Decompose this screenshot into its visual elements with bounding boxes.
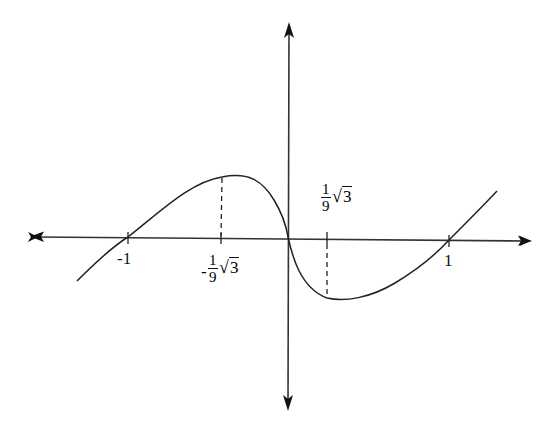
label-local-max-fraction: 1 9 — [208, 253, 218, 285]
radicand: 3 — [229, 257, 240, 277]
x-axis — [36, 237, 528, 241]
fraction-denominator: 9 — [208, 269, 218, 285]
function-graph — [0, 0, 551, 445]
dashed-guide-local-max — [221, 178, 222, 236]
radical-icon: √ — [219, 257, 229, 277]
fraction-numerator: 1 — [321, 182, 331, 198]
radicand: 3 — [342, 186, 353, 206]
label-local-min-radical: √3 — [332, 186, 352, 207]
fraction-denominator: 9 — [321, 198, 331, 214]
y-axis — [288, 28, 289, 404]
label-local-max-sign: - — [201, 262, 207, 282]
radical-icon: √ — [332, 186, 342, 206]
label-neg-one: -1 — [117, 250, 131, 267]
label-pos-one: 1 — [444, 252, 453, 269]
fraction-numerator: 1 — [208, 253, 218, 269]
label-local-max-radical: √3 — [219, 257, 239, 278]
label-local-min-fraction: 1 9 — [321, 182, 331, 214]
